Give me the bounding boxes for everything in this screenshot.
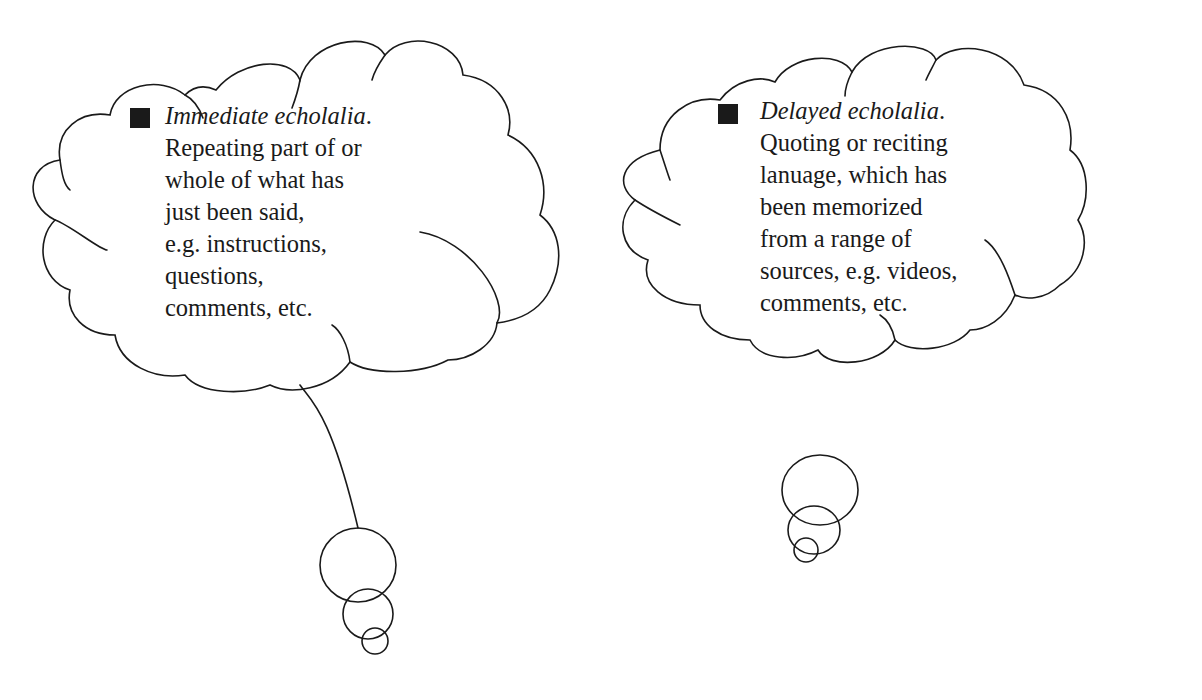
bullet-icon bbox=[130, 108, 150, 128]
bubble-line: comments, etc. bbox=[165, 292, 372, 324]
bubble-heading: Immediate echolalia bbox=[165, 102, 366, 129]
bubble-line: sources, e.g. videos, bbox=[760, 255, 957, 287]
bubble-line: from a range of bbox=[760, 223, 957, 255]
bubble-line: lanuage, which has bbox=[760, 159, 957, 191]
bubble-delayed-echolalia: Delayed echolalia. Quoting or reciting l… bbox=[760, 95, 957, 319]
bullet-icon bbox=[718, 104, 738, 124]
bubble-line: Quoting or reciting bbox=[760, 127, 957, 159]
bubble-line: e.g. instructions, bbox=[165, 228, 372, 260]
bubble-immediate-echolalia: Immediate echolalia. Repeating part of o… bbox=[165, 100, 372, 324]
bubble-line: Repeating part of or bbox=[165, 132, 372, 164]
bubble-line: just been said, bbox=[165, 196, 372, 228]
bubble-line: whole of what has bbox=[165, 164, 372, 196]
tail-circle-medium bbox=[788, 506, 840, 554]
bubble-line: been memorized bbox=[760, 191, 957, 223]
tail-circle-small bbox=[794, 538, 818, 562]
bubble-line: comments, etc. bbox=[760, 287, 957, 319]
bubble-heading: Delayed echolalia bbox=[760, 97, 939, 124]
bubble-line: questions, bbox=[165, 260, 372, 292]
tail-circle-medium bbox=[343, 589, 393, 639]
tail-circle-small bbox=[362, 628, 388, 654]
